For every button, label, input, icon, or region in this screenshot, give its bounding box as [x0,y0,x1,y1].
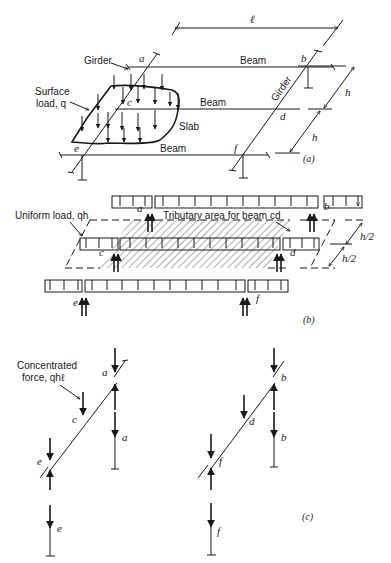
part-c-concentrated-forces: Concentrated force, qhℓ a a b b c d e e … [17,348,314,556]
point-e-c1: e [37,455,42,467]
beam-label-bottom: Beam [160,143,186,154]
concentrated-force-leader [60,385,80,399]
point-f-b: f [256,292,261,304]
uniform-load-label: Uniform load, qh [15,210,88,221]
slab-label: Slab [179,121,199,132]
span-label: ℓ [250,13,255,25]
point-e: e [74,142,79,154]
uniform-load-leader [70,222,82,236]
spacing-label-2: h [312,131,318,143]
girder-left-end-bottom [68,172,74,173]
surface-load-leader [70,102,89,110]
point-b-c1: b [281,371,287,383]
point-b-c2: b [281,431,287,443]
span-tick-right [323,20,343,46]
point-a-c1: a [102,366,108,378]
point-d: d [280,110,286,122]
caption-b: (b) [303,314,315,326]
part-b-tributary-loads: h/2 h/2 Uniform load, qh Tributary area … [15,196,375,326]
point-b: b [301,52,307,64]
point-d-b: d [290,246,296,258]
spacing-label-1: h [345,86,351,98]
surface-load-arrows [82,74,178,142]
structural-load-path-diagram: ℓ [0,0,391,563]
point-c-c: c [72,413,77,425]
surface-load-label-1: Surface [35,86,70,97]
point-f-c1: f [219,455,224,467]
half-spacing-label-2: h/2 [342,252,357,264]
force-arrows-right [207,348,278,555]
point-c-b: c [99,246,104,258]
beam-label-mid: Beam [200,97,226,108]
beam-label-top: Beam [240,55,266,66]
load-strip-ef [45,280,288,292]
point-f: f [234,142,239,154]
surface-load-label-2: load, q [36,98,66,109]
point-a-b: a [137,202,143,214]
point-c: c [127,96,132,108]
slab-outline [72,85,179,143]
girder-ae-end-top [122,360,128,361]
point-a-c2: a [122,431,128,443]
part-a-floor-framing: ℓ [35,13,354,180]
concentrated-force-label-2: force, qhℓ [22,372,65,383]
caption-c: (c) [302,511,314,523]
girder-right [232,50,318,170]
girder-leader [111,63,128,69]
girder-right-end-bottom [229,170,236,171]
point-d-c: d [249,415,255,427]
girder-left [72,54,157,172]
half-spacing-label-1: h/2 [360,230,375,242]
caption-a: (a) [303,153,315,165]
tributary-label: Tributary area for beam cd [163,210,280,221]
girder-label-left: Girder [84,55,112,66]
girder-bf-stub-bottom [198,465,208,478]
point-f-c2: f [217,525,222,537]
tributary-area-hatch [100,220,290,268]
concentrated-force-label-1: Concentrated [17,360,77,371]
point-e-c2: e [57,522,62,534]
point-e-b: e [73,296,78,308]
point-a: a [139,52,145,64]
girder-ae-stub-bottom [40,467,48,478]
point-b-b: b [324,200,330,212]
